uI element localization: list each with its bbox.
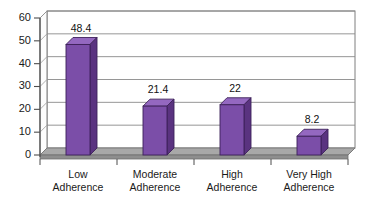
bar-chart: 0 10 20 30 40 50 60 xyxy=(0,0,371,198)
bar-front-face-3 xyxy=(297,136,321,155)
data-label-0: 48.4 xyxy=(71,22,92,34)
y-tick-label-50: 50 xyxy=(19,34,31,46)
data-label-3: 8.2 xyxy=(305,113,320,125)
plot-floor-front xyxy=(40,155,348,159)
category-label-2-line1: High xyxy=(221,168,243,180)
bar-group-1[interactable] xyxy=(143,99,174,155)
bar-side-face-2 xyxy=(244,98,251,155)
bar-front-face-2 xyxy=(220,105,244,155)
category-label-0-line1: Low xyxy=(68,168,88,180)
bar-group-0[interactable] xyxy=(66,37,97,155)
data-label-1: 21.4 xyxy=(148,83,169,95)
category-label-2-line2: Adherence xyxy=(207,181,258,193)
bar-front-face-1 xyxy=(143,106,167,155)
category-label-1-line1: Moderate xyxy=(133,168,178,180)
y-tick-label-0: 0 xyxy=(25,148,31,160)
y-tick-label-60: 60 xyxy=(19,11,31,23)
y-tick-label-30: 30 xyxy=(19,79,31,91)
data-label-2: 22 xyxy=(229,82,241,94)
chart-svg: 0 10 20 30 40 50 60 xyxy=(0,0,371,198)
y-tick-label-10: 10 xyxy=(19,125,31,137)
bar-side-face-1 xyxy=(167,99,174,155)
y-tick-label-40: 40 xyxy=(19,57,31,69)
category-label-3-line2: Adherence xyxy=(284,181,335,193)
category-label-1-line2: Adherence xyxy=(130,181,181,193)
bar-side-face-0 xyxy=(90,37,97,155)
category-label-0-line2: Adherence xyxy=(53,181,104,193)
bar-front-face-0 xyxy=(66,44,90,155)
category-label-3-line1: Very High xyxy=(286,168,332,180)
bar-group-3[interactable] xyxy=(297,129,328,155)
y-tick-label-20: 20 xyxy=(19,102,31,114)
bar-group-2[interactable] xyxy=(220,98,251,155)
